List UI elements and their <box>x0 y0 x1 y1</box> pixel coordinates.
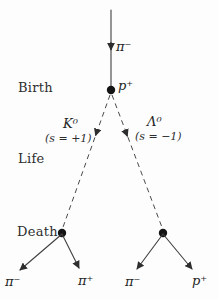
label-birth: Birth <box>18 81 53 94</box>
lambda-track-arrowhead <box>125 130 127 136</box>
label-incoming-pion: π⁻ <box>116 40 131 53</box>
label-kaon-strangeness: (s = +1) <box>45 133 92 144</box>
label-kaon: K⁰ <box>63 117 78 130</box>
particle-lifecycle-diagram: Birth Life Death π⁻ p⁺ K⁰ (s = +1) Λ⁰ (s… <box>0 0 218 300</box>
label-proton-target: p⁺ <box>118 79 133 92</box>
kaon-decay-arrow-pion-minus <box>20 234 62 270</box>
label-life: Life <box>18 152 45 165</box>
label-kaon-decay-pion-plus: π⁺ <box>78 274 93 287</box>
lambda-decay-arrow-pion-minus <box>137 234 163 269</box>
label-death: Death <box>17 225 58 238</box>
lambda-decay-arrow-proton <box>163 234 192 269</box>
lambda-decay-vertex <box>159 229 167 237</box>
diagram-canvas <box>0 0 218 300</box>
kaon-track-arrowhead <box>96 130 98 136</box>
label-kaon-decay-pion-minus: π⁻ <box>5 275 20 288</box>
label-lambda-decay-pion-minus: π⁻ <box>125 275 140 288</box>
kaon-decay-arrow-pion-plus <box>62 234 79 268</box>
label-lambda-decay-proton: p⁺ <box>192 274 207 287</box>
birth-vertex <box>107 86 115 94</box>
label-lambda: Λ⁰ <box>147 115 162 128</box>
label-lambda-strangeness: (s = −1) <box>135 131 182 142</box>
